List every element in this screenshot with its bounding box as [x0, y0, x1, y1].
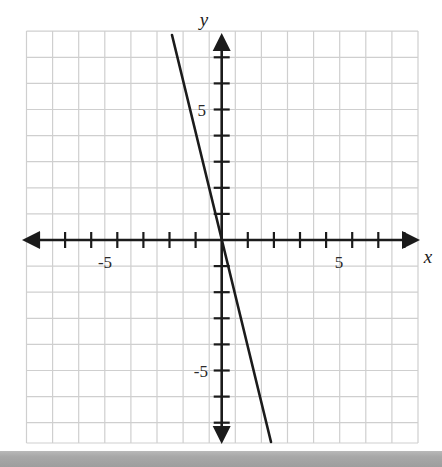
x-tick-label-neg5: -5: [98, 253, 112, 272]
y-tick-label-pos5: 5: [198, 101, 207, 120]
x-tick-label-pos5: 5: [335, 253, 344, 272]
y-tick-label-neg5: -5: [194, 362, 208, 381]
x-axis-letter-label: x: [423, 246, 433, 267]
graph-canvas: -5 5 5 -5 y x: [0, 0, 442, 467]
y-axis-bottom-arrowhead: [213, 426, 231, 444]
coordinate-plane-figure: -5 5 5 -5 y x: [0, 0, 442, 467]
y-axis-top-arrowhead: [213, 33, 231, 51]
y-axis-letter-label: y: [198, 9, 209, 30]
footer-bar: [0, 451, 442, 467]
x-axis-left-arrowhead: [22, 231, 40, 249]
